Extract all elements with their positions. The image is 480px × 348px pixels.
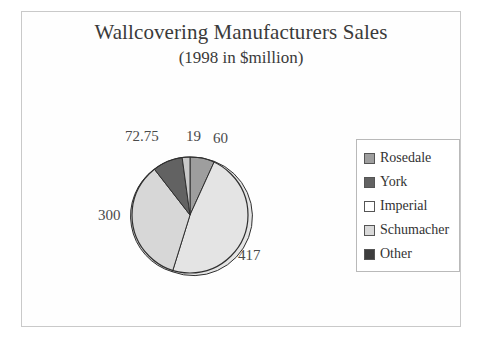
- legend-swatch-icon: [364, 249, 375, 260]
- pie-chart: 72.75 19 60 300 417: [95, 120, 295, 310]
- legend-item-rosedale[interactable]: Rosedale: [364, 146, 459, 170]
- legend-swatch-icon: [364, 177, 375, 188]
- legend-label: York: [380, 175, 407, 189]
- legend-swatch-icon: [364, 225, 375, 236]
- slide-canvas: Wallcovering Manufacturers Sales (1998 i…: [0, 0, 480, 348]
- legend-item-other[interactable]: Other: [364, 242, 459, 266]
- title-block: Wallcovering Manufacturers Sales (1998 i…: [21, 20, 461, 69]
- pie-chart-svg: [95, 120, 295, 310]
- legend-label: Other: [380, 247, 412, 261]
- legend-label: Rosedale: [380, 151, 431, 165]
- pie-label-other: 19: [186, 129, 201, 144]
- legend-item-york[interactable]: York: [364, 170, 459, 194]
- page-subtitle: (1998 in $million): [21, 47, 461, 69]
- page-title: Wallcovering Manufacturers Sales: [21, 20, 461, 45]
- pie-label-imperial: 300: [98, 208, 121, 223]
- pie-label-york: 72.75: [125, 129, 159, 144]
- legend-label: Schumacher: [380, 223, 449, 237]
- legend-label: Imperial: [380, 199, 427, 213]
- legend-item-imperial[interactable]: Imperial: [364, 194, 459, 218]
- legend-swatch-icon: [364, 153, 375, 164]
- pie-label-schumacher: 417: [238, 248, 261, 263]
- chart-legend: Rosedale York Imperial Schumacher Other: [356, 139, 460, 272]
- legend-swatch-icon: [364, 201, 375, 212]
- legend-item-schumacher[interactable]: Schumacher: [364, 218, 459, 242]
- pie-label-rosedale: 60: [213, 131, 228, 146]
